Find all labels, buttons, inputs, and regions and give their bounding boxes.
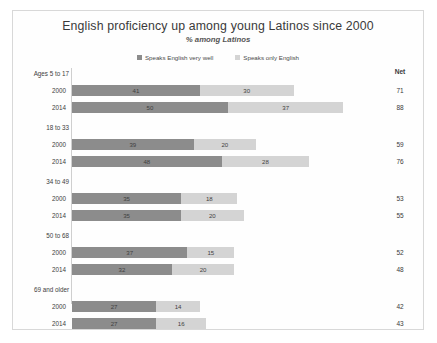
group-label-1: 18 to 33	[13, 124, 69, 131]
row-label-year: 2000	[13, 301, 66, 312]
legend-label: Speaks English very well	[145, 54, 213, 61]
bar-value-label: 35	[123, 193, 130, 204]
bar-segment-very-well[interactable]: 39	[72, 139, 194, 150]
bar-value-label: 18	[206, 193, 213, 204]
bar-row: 2000413071	[13, 85, 423, 96]
bar-segment-very-well[interactable]: 35	[72, 210, 181, 221]
net-value: 53	[385, 193, 415, 204]
bar-segment-only-english[interactable]: 16	[156, 318, 206, 329]
bar-segment-only-english[interactable]: 37	[228, 102, 343, 113]
bar-value-label: 14	[175, 301, 182, 312]
group-label-3: 50 to 68	[13, 232, 69, 239]
stacked-bar[interactable]: 5037	[72, 102, 343, 113]
legend-label: Speaks only English	[243, 54, 299, 61]
bar-row: 2000371552	[13, 247, 423, 258]
chart-title: English proficiency up among young Latin…	[13, 19, 423, 33]
bar-value-label: 48	[143, 156, 150, 167]
bar-row: 2000271442	[13, 301, 423, 312]
chart-legend: Speaks English very wellSpeaks only Engl…	[13, 52, 423, 62]
bar-row: 2014322048	[13, 264, 423, 275]
chart-subtitle: % among Latinos	[13, 34, 423, 45]
title-block: English proficiency up among young Latin…	[13, 11, 423, 45]
bar-value-label: 15	[207, 247, 214, 258]
stacked-bar[interactable]: 3715	[72, 247, 234, 258]
bar-segment-very-well[interactable]: 35	[72, 193, 181, 204]
bar-segment-only-english[interactable]: 20	[172, 264, 234, 275]
row-label-year: 2014	[13, 102, 66, 113]
row-label-year: 2000	[13, 139, 66, 150]
legend-entry-0[interactable]: Speaks English very well	[137, 54, 213, 61]
bar-value-label: 50	[147, 102, 154, 113]
bar-segment-very-well[interactable]: 37	[72, 247, 187, 258]
chart-container: English proficiency up among young Latin…	[12, 10, 424, 330]
plot-area: Net Ages 5 to 172000413071201450378818 t…	[13, 68, 423, 312]
bar-segment-only-english[interactable]: 30	[200, 85, 294, 96]
bar-value-label: 30	[243, 85, 250, 96]
bar-value-label: 27	[111, 318, 118, 329]
bar-value-label: 28	[262, 156, 269, 167]
group-label-2: 34 to 49	[13, 178, 69, 185]
net-value: 43	[385, 318, 415, 329]
bar-row: 2014482876	[13, 156, 423, 167]
bar-value-label: 27	[111, 301, 118, 312]
legend-swatch-icon	[235, 55, 240, 60]
net-value: 55	[385, 210, 415, 221]
bar-value-label: 20	[200, 264, 207, 275]
bar-value-label: 20	[221, 139, 228, 150]
bar-segment-only-english[interactable]: 28	[222, 156, 309, 167]
row-label-year: 2000	[13, 85, 66, 96]
row-label-year: 2014	[13, 156, 66, 167]
legend-swatch-icon	[137, 55, 142, 60]
bar-row: 2014352055	[13, 210, 423, 221]
row-label-year: 2000	[13, 193, 66, 204]
stacked-bar[interactable]: 4130	[72, 85, 294, 96]
net-value: 88	[385, 102, 415, 113]
bar-value-label: 37	[126, 247, 133, 258]
row-label-year: 2014	[13, 264, 66, 275]
net-value: 42	[385, 301, 415, 312]
legend-entry-1[interactable]: Speaks only English	[235, 54, 299, 61]
net-value: 59	[385, 139, 415, 150]
bar-value-label: 35	[123, 210, 130, 221]
net-value: 52	[385, 247, 415, 258]
bar-segment-very-well[interactable]: 27	[72, 301, 156, 312]
row-label-year: 2000	[13, 247, 66, 258]
net-column-header: Net	[385, 68, 415, 75]
stacked-bar[interactable]: 3220	[72, 264, 234, 275]
stacked-bar[interactable]: 2714	[72, 301, 200, 312]
stacked-bar[interactable]: 4828	[72, 156, 309, 167]
bar-value-label: 37	[282, 102, 289, 113]
bar-segment-only-english[interactable]: 15	[187, 247, 234, 258]
bar-segment-very-well[interactable]: 41	[72, 85, 200, 96]
stacked-bar[interactable]: 3920	[72, 139, 256, 150]
bar-value-label: 32	[119, 264, 126, 275]
group-label-0: Ages 5 to 17	[13, 70, 69, 77]
bar-row: 2000351853	[13, 193, 423, 204]
bar-row: 2000392059	[13, 139, 423, 150]
stacked-bar[interactable]: 2716	[72, 318, 206, 329]
net-value: 76	[385, 156, 415, 167]
bar-value-label: 20	[209, 210, 216, 221]
bar-segment-only-english[interactable]: 20	[181, 210, 243, 221]
bar-segment-only-english[interactable]: 14	[156, 301, 200, 312]
stacked-bar[interactable]: 3518	[72, 193, 237, 204]
bar-row: 2014503788	[13, 102, 423, 113]
bar-segment-very-well[interactable]: 27	[72, 318, 156, 329]
net-value: 48	[385, 264, 415, 275]
stacked-bar[interactable]: 3520	[72, 210, 244, 221]
net-value: 71	[385, 85, 415, 96]
bar-value-label: 41	[133, 85, 140, 96]
bar-row: 2014271643	[13, 318, 423, 329]
bar-segment-very-well[interactable]: 32	[72, 264, 172, 275]
bar-value-label: 39	[129, 139, 136, 150]
bar-segment-very-well[interactable]: 50	[72, 102, 228, 113]
group-label-4: 69 and older	[13, 286, 69, 293]
row-label-year: 2014	[13, 318, 66, 329]
bar-value-label: 16	[178, 318, 185, 329]
bar-segment-only-english[interactable]: 20	[194, 139, 256, 150]
bar-segment-only-english[interactable]: 18	[181, 193, 237, 204]
row-label-year: 2014	[13, 210, 66, 221]
bar-segment-very-well[interactable]: 48	[72, 156, 222, 167]
